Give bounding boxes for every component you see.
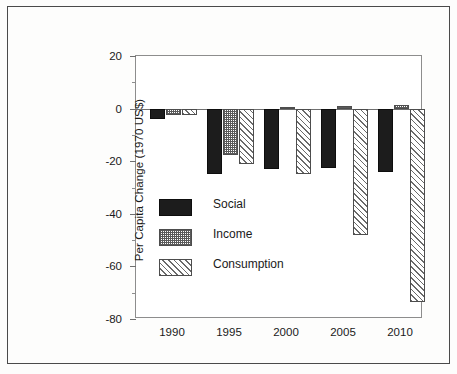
bar-1995-social <box>207 109 222 175</box>
x-tick-label-1995: 1995 <box>216 326 242 338</box>
y-tick-minor-neg70 <box>132 293 136 294</box>
bar-1995-income <box>223 109 238 155</box>
y-tick-label-neg80: -80 <box>105 313 122 325</box>
y-tick-label-neg20: -20 <box>105 155 122 167</box>
bar-1990-consumption <box>182 109 197 116</box>
y-tick-minor-neg50 <box>132 240 136 241</box>
legend-label-income: Income <box>213 227 252 241</box>
bar-2010-social <box>378 109 393 172</box>
y-tick-label-neg40: -40 <box>105 208 122 220</box>
bar-2005-social <box>321 109 336 168</box>
plot-area: Per Capita Change (1970 US$) 20 0 -20 -4… <box>135 55 422 318</box>
x-tick-label-2010: 2010 <box>387 326 413 338</box>
legend-swatch-consumption-icon <box>159 259 192 276</box>
y-tick-minor-10 <box>132 82 136 83</box>
y-tick-neg20: -20 <box>130 161 136 162</box>
x-tick-label-2000: 2000 <box>273 326 299 338</box>
bar-2005-consumption <box>353 109 368 235</box>
bar-2010-consumption <box>410 109 425 302</box>
bar-1990-social <box>150 109 165 120</box>
bar-2000-social <box>264 109 279 170</box>
bar-1990-income <box>166 109 181 116</box>
y-tick-minor-neg10 <box>132 135 136 136</box>
x-tick-label-1990: 1990 <box>159 326 185 338</box>
y-tick-label-0: 0 <box>116 103 122 115</box>
y-axis-title: Per Capita Change (1970 US$) <box>133 10 145 350</box>
legend-swatch-income-icon <box>159 229 192 246</box>
chart-page: Per Capita Change (1970 US$) 20 0 -20 -4… <box>0 0 457 374</box>
x-tick-label-2005: 2005 <box>330 326 356 338</box>
bar-1995-consumption <box>239 109 254 164</box>
y-tick-label-20: 20 <box>109 50 122 62</box>
bar-2000-consumption <box>296 109 311 175</box>
y-tick-minor-neg30 <box>132 188 136 189</box>
y-tick-label-neg60: -60 <box>105 260 122 272</box>
legend-label-consumption: Consumption <box>213 257 284 271</box>
legend-label-social: Social <box>213 197 246 211</box>
bar-2000-income <box>280 107 295 109</box>
bar-2010-income <box>394 105 409 109</box>
bar-2005-income <box>337 106 352 109</box>
y-tick-neg60: -60 <box>130 266 136 267</box>
figure-frame: Per Capita Change (1970 US$) 20 0 -20 -4… <box>7 6 450 364</box>
legend-swatch-social-icon <box>159 199 192 216</box>
y-tick-neg80: -80 <box>130 319 136 320</box>
y-tick-neg40: -40 <box>130 214 136 215</box>
y-tick-20: 20 <box>130 56 136 57</box>
